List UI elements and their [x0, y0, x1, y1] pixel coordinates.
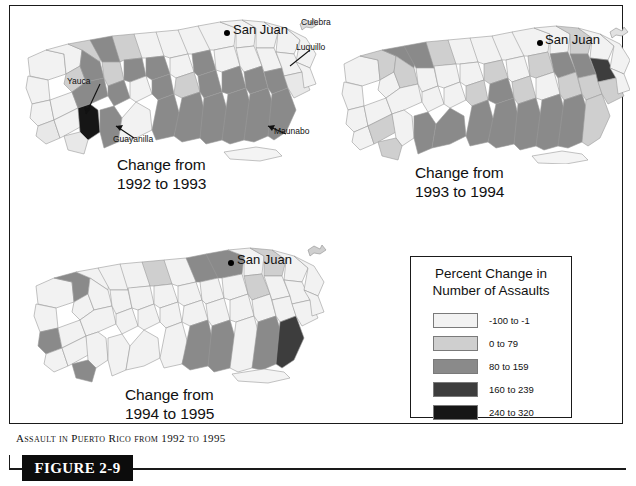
legend-row: 160 to 239 [433, 380, 571, 400]
legend-row: 240 to 320 [433, 403, 571, 423]
legend-row: 0 to 79 [433, 334, 571, 354]
map-1-label-luquillo: Luquillo [296, 42, 325, 52]
legend-label-1: -100 to -1 [489, 315, 530, 326]
legend-swatch-4 [433, 382, 478, 397]
figure-caption: Assault in Puerto Rico from 1992 to 1995 [16, 432, 226, 444]
map-1-label-culebra: Culebra [301, 17, 331, 27]
legend-swatch-3 [433, 359, 478, 374]
map-2-title: Change from 1993 to 1994 [415, 164, 504, 202]
map-1-label-maunabo: Maunabo [274, 126, 309, 136]
legend-swatch-5 [433, 405, 478, 420]
figure-number-elbow [9, 455, 23, 469]
map-1-title: Change from 1992 to 1993 [117, 156, 206, 194]
legend-row: -100 to -1 [433, 311, 571, 331]
figure-number-text: FIGURE 2-9 [34, 460, 120, 477]
legend-label-4: 160 to 239 [489, 384, 534, 395]
map-1-label-guayanilla: Guayanilla [113, 134, 153, 144]
map-1-san-juan-dot [224, 30, 230, 36]
map-1-label-san-juan: San Juan [233, 22, 288, 37]
legend-label-3: 80 to 159 [489, 361, 529, 372]
legend-label-2: 0 to 79 [489, 338, 518, 349]
legend-rows: -100 to -1 0 to 79 80 to 159 160 to 239 … [411, 311, 571, 423]
legend-swatch-1 [433, 313, 478, 328]
map-2-label-san-juan: San Juan [545, 32, 600, 47]
figure-page: San Juan Culebra Luquillo Maunabo Yauca … [0, 0, 636, 486]
legend-label-5: 240 to 320 [489, 407, 534, 418]
legend-row: 80 to 159 [433, 357, 571, 377]
map-3-label-san-juan: San Juan [237, 252, 292, 267]
figure-frame: San Juan Culebra Luquillo Maunabo Yauca … [9, 5, 623, 424]
legend-swatch-2 [433, 336, 478, 351]
figure-number-box: FIGURE 2-9 [22, 455, 133, 481]
map-3-title: Change from 1994 to 1995 [125, 386, 214, 424]
legend: Percent Change in Number of Assaults -10… [410, 256, 572, 418]
map-1-label-yauca: Yauca [67, 76, 90, 86]
map-3-san-juan-dot [228, 260, 234, 266]
map-2-san-juan-dot [537, 40, 543, 46]
legend-title: Percent Change in Number of Assaults [411, 266, 571, 300]
